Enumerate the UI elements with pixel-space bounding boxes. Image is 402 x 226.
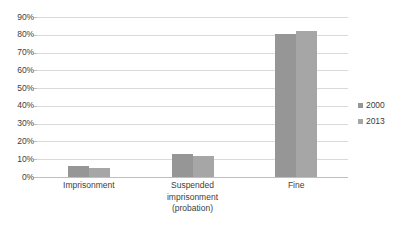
legend-item-label: 2013	[366, 117, 385, 126]
y-axis-tick-label: 30%	[0, 119, 34, 128]
legend-swatch-icon	[358, 119, 363, 124]
bar	[296, 31, 317, 177]
legend-item[interactable]: 2013	[358, 113, 402, 129]
x-axis-category-label: Imprisonment	[43, 180, 135, 192]
bar-group	[172, 17, 214, 177]
x-axis-labels: ImprisonmentSuspendedimprisonment(probat…	[37, 180, 348, 226]
bar	[172, 154, 193, 177]
x-axis-category-label: Fine	[250, 180, 342, 192]
y-axis-tick-label: 60%	[0, 66, 34, 75]
y-axis-tick-label: 70%	[0, 48, 34, 57]
x-axis-category-label-line: imprisonment	[147, 192, 239, 204]
legend-item-label: 2000	[366, 101, 385, 110]
x-axis-category-label-line: Fine	[250, 180, 342, 192]
bar-group	[68, 17, 110, 177]
x-axis-category-label-line: Imprisonment	[43, 180, 135, 192]
bar	[89, 168, 110, 177]
y-axis-tick-label: 80%	[0, 30, 34, 39]
bar	[275, 34, 296, 177]
bar-chart: 0%10%20%30%40%50%60%70%80%90% Imprisonme…	[0, 0, 402, 226]
y-axis-tick-label: 40%	[0, 101, 34, 110]
y-axis: 0%10%20%30%40%50%60%70%80%90%	[0, 0, 34, 226]
chart-legend: 20002013	[358, 97, 402, 129]
bars-layer	[37, 17, 348, 177]
legend-item[interactable]: 2000	[358, 97, 402, 113]
plot-area	[37, 17, 348, 177]
bar-group	[275, 17, 317, 177]
bar	[68, 166, 89, 177]
y-axis-tick-label: 0%	[0, 173, 34, 182]
x-axis-category-label-line: (probation)	[147, 203, 239, 215]
x-axis-category-label: Suspendedimprisonment(probation)	[147, 180, 239, 215]
y-axis-tick-label: 90%	[0, 13, 34, 22]
bar	[193, 156, 214, 177]
x-axis-category-label-line: Suspended	[147, 180, 239, 192]
gridline	[37, 177, 348, 178]
legend-swatch-icon	[358, 103, 363, 108]
y-axis-tick-label: 20%	[0, 137, 34, 146]
y-axis-tick-label: 50%	[0, 84, 34, 93]
y-axis-tick-label: 10%	[0, 155, 34, 164]
